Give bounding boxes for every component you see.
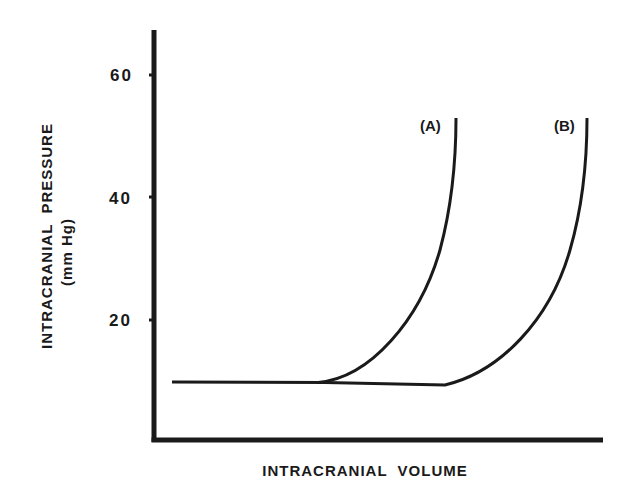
y-tick-label-60: 60: [110, 66, 133, 85]
curve-baseline: [172, 382, 325, 383]
pressure-volume-chart: 60 40 20 INTRACRANIAL PRESSURE (mm Hg) I…: [0, 0, 642, 491]
y-axis-title: INTRACRANIAL PRESSURE: [38, 123, 55, 349]
curve-b-label: (B): [554, 117, 575, 134]
curve-a: [318, 118, 456, 383]
curve-a-label: (A): [420, 117, 441, 134]
x-axis-title: INTRACRANIAL VOLUME: [262, 462, 468, 479]
y-axis-units: (mm Hg): [58, 218, 75, 286]
y-tick-label-40: 40: [109, 189, 132, 208]
y-tick-label-20: 20: [109, 311, 132, 330]
